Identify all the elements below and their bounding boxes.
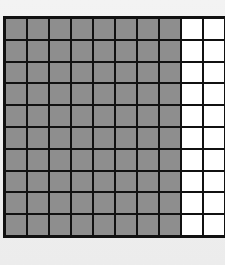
shaded-cell bbox=[50, 63, 70, 83]
shaded-cell bbox=[6, 106, 26, 126]
shaded-cell bbox=[138, 41, 158, 61]
unshaded-cell bbox=[204, 63, 224, 83]
shaded-cell bbox=[116, 172, 136, 192]
shaded-cell bbox=[6, 215, 26, 235]
shaded-cell bbox=[94, 150, 114, 170]
shaded-cell bbox=[72, 106, 92, 126]
shaded-cell bbox=[160, 63, 180, 83]
canvas bbox=[0, 0, 225, 265]
shaded-cell bbox=[72, 150, 92, 170]
shaded-cell bbox=[94, 84, 114, 104]
shaded-cell bbox=[138, 215, 158, 235]
shaded-cell bbox=[116, 193, 136, 213]
shaded-cell bbox=[94, 172, 114, 192]
shaded-cell bbox=[138, 128, 158, 148]
unshaded-cell bbox=[204, 41, 224, 61]
shaded-cell bbox=[160, 84, 180, 104]
shaded-cell bbox=[138, 172, 158, 192]
shaded-cell bbox=[116, 19, 136, 39]
shaded-cell bbox=[160, 150, 180, 170]
shaded-cell bbox=[28, 63, 48, 83]
shaded-cell bbox=[28, 215, 48, 235]
shaded-cell bbox=[6, 19, 26, 39]
shaded-cell bbox=[160, 106, 180, 126]
shaded-cell bbox=[28, 106, 48, 126]
shaded-cell bbox=[50, 172, 70, 192]
shaded-cell bbox=[94, 63, 114, 83]
shaded-cell bbox=[138, 150, 158, 170]
shaded-cell bbox=[72, 215, 92, 235]
shaded-cell bbox=[94, 106, 114, 126]
shaded-cell bbox=[72, 193, 92, 213]
shaded-cell bbox=[160, 193, 180, 213]
shaded-cell bbox=[28, 172, 48, 192]
unshaded-cell bbox=[204, 172, 224, 192]
unshaded-cell bbox=[204, 128, 224, 148]
shaded-cell bbox=[72, 84, 92, 104]
shaded-cell bbox=[28, 193, 48, 213]
shaded-cell bbox=[72, 41, 92, 61]
shaded-cell bbox=[6, 193, 26, 213]
shaded-cell bbox=[6, 172, 26, 192]
unshaded-cell bbox=[204, 193, 224, 213]
shaded-cell bbox=[116, 84, 136, 104]
shaded-cell bbox=[50, 41, 70, 61]
shaded-cell bbox=[72, 63, 92, 83]
shaded-cell bbox=[138, 106, 158, 126]
shaded-cell bbox=[138, 63, 158, 83]
shaded-cell bbox=[116, 63, 136, 83]
shaded-cell bbox=[116, 106, 136, 126]
shaded-cell bbox=[94, 193, 114, 213]
unshaded-cell bbox=[204, 150, 224, 170]
unshaded-cell bbox=[182, 172, 202, 192]
shaded-cell bbox=[50, 84, 70, 104]
unshaded-cell bbox=[204, 215, 224, 235]
shaded-cell bbox=[50, 128, 70, 148]
shaded-cell bbox=[6, 41, 26, 61]
shaded-cell bbox=[28, 128, 48, 148]
shaded-cell bbox=[160, 19, 180, 39]
shaded-cell bbox=[94, 128, 114, 148]
shaded-cell bbox=[6, 63, 26, 83]
shaded-cell bbox=[28, 41, 48, 61]
unshaded-cell bbox=[182, 193, 202, 213]
shaded-cell bbox=[72, 128, 92, 148]
shaded-cell bbox=[50, 215, 70, 235]
hundred-grid bbox=[3, 16, 225, 238]
unshaded-cell bbox=[182, 84, 202, 104]
shaded-cell bbox=[138, 193, 158, 213]
shaded-cell bbox=[160, 215, 180, 235]
unshaded-cell bbox=[182, 41, 202, 61]
shaded-cell bbox=[116, 128, 136, 148]
unshaded-cell bbox=[182, 150, 202, 170]
shaded-cell bbox=[50, 106, 70, 126]
unshaded-cell bbox=[182, 19, 202, 39]
shaded-cell bbox=[6, 84, 26, 104]
shaded-cell bbox=[138, 19, 158, 39]
shaded-cell bbox=[50, 150, 70, 170]
shaded-cell bbox=[116, 215, 136, 235]
shaded-cell bbox=[160, 172, 180, 192]
shaded-cell bbox=[50, 193, 70, 213]
shaded-cell bbox=[94, 19, 114, 39]
unshaded-cell bbox=[182, 215, 202, 235]
shaded-cell bbox=[28, 150, 48, 170]
shaded-cell bbox=[160, 128, 180, 148]
shaded-cell bbox=[116, 150, 136, 170]
unshaded-cell bbox=[182, 63, 202, 83]
unshaded-cell bbox=[204, 106, 224, 126]
shaded-cell bbox=[6, 150, 26, 170]
shaded-cell bbox=[28, 19, 48, 39]
shaded-cell bbox=[138, 84, 158, 104]
shaded-cell bbox=[116, 41, 136, 61]
unshaded-cell bbox=[182, 128, 202, 148]
shaded-cell bbox=[50, 19, 70, 39]
unshaded-cell bbox=[204, 84, 224, 104]
shaded-cell bbox=[72, 19, 92, 39]
unshaded-cell bbox=[204, 19, 224, 39]
shaded-cell bbox=[28, 84, 48, 104]
shaded-cell bbox=[94, 215, 114, 235]
shaded-cell bbox=[6, 128, 26, 148]
shaded-cell bbox=[72, 172, 92, 192]
shaded-cell bbox=[160, 41, 180, 61]
